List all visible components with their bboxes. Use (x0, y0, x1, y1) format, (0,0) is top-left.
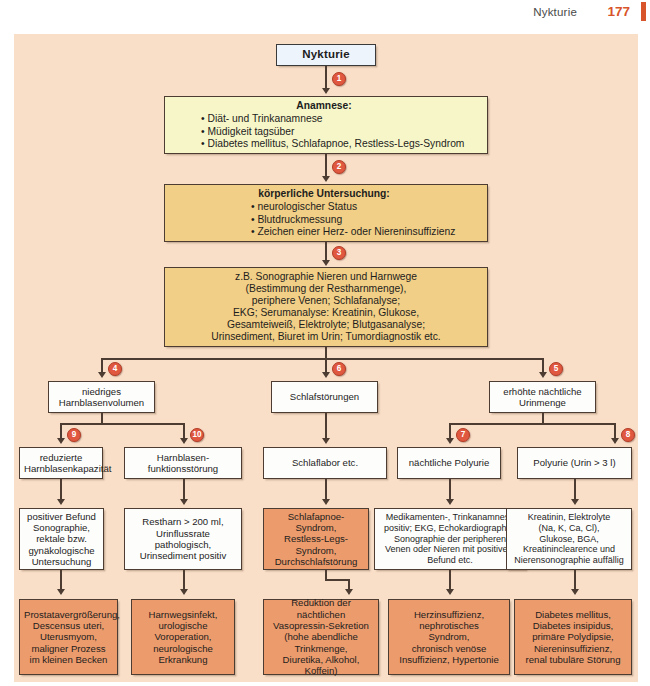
diagnosis-2-line-2: urologische (136, 620, 230, 631)
arrowhead-5 (539, 372, 547, 378)
diagnosis-2-line-1: Harnwegsinfekt, (136, 609, 230, 620)
finding-5-line-5: Nierensonographie auffällig (511, 555, 627, 566)
marker-6: 6 (332, 362, 346, 376)
branch-3-line-2: Urinmenge (494, 397, 591, 408)
marker-10: 10 (190, 428, 204, 442)
arrowhead-f3 (322, 499, 330, 505)
finding-1-line-3: rektale bzw. (24, 533, 99, 544)
finding-4-line-2: positiv; EKG, Echokardiographie, (379, 523, 521, 534)
diagnostik-line-2: (Bestimmung der Restharnmenge), (169, 283, 483, 295)
node-title-nykturie: Nykturie (276, 44, 376, 66)
marker-2: 2 (332, 160, 346, 174)
arrowhead-f4 (446, 499, 454, 505)
marker-3: 3 (332, 246, 346, 260)
sub-2-line-2: funktionsstörung (129, 463, 237, 474)
untersuchung-heading: körperliche Untersuchung: (165, 188, 483, 200)
arrowhead-7 (446, 438, 454, 444)
connector-right-horizontal (449, 423, 615, 425)
untersuchung-item-1: • neurologischer Status (165, 201, 483, 213)
marker-8: 8 (621, 428, 635, 442)
diagnosis-3-line-6: Diuretika, Alkohol, (268, 654, 374, 665)
node-sub-harnblasenfunktionsstoerung: Harnblasen- funktionsstörung (124, 447, 242, 479)
diagnosis-1-line-5: im kleinen Becken (24, 654, 113, 665)
finding-3-line-3: Restless-Legs- (268, 533, 364, 544)
finding-1-line-1: positiver Befund (24, 511, 99, 522)
branch-2-line-1: Schlafstörungen (276, 391, 373, 402)
finding-3-line-1: Schlafapnoe- (268, 511, 364, 522)
finding-1-line-4: gynäkologische (24, 545, 99, 556)
node-finding-restharn: Restharn > 200 ml, Urinflussrate patholo… (124, 508, 242, 570)
anamnese-item-1: • Diät- und Trinkanamnese (165, 113, 483, 125)
arrowhead-d1 (57, 589, 65, 595)
diagnosis-1-line-4: maligner Prozess (24, 643, 113, 654)
connector-sub1-finding1 (60, 479, 62, 501)
diagnostik-line-6: Urinsediment, Biuret im Urin; Tumordiagn… (169, 331, 483, 343)
finding-5-line-3: Glukose, BGA, (511, 534, 627, 545)
node-diagnosis-prostata: Prostatavergrößerung, Descensus uteri, U… (19, 599, 118, 675)
diagnosis-5-line-5: renal tubuläre Störung (519, 654, 627, 665)
marker-4: 4 (108, 362, 122, 376)
arrowhead-9 (57, 438, 65, 444)
node-branch-schlafstoerungen: Schlafstörungen (271, 381, 378, 413)
connector-sub4-finding4 (449, 479, 451, 501)
anamnese-item-3: • Diabetes mellitus, Schlafapnoe, Restle… (165, 138, 483, 150)
finding-5-line-4: Kreatininclearence und (511, 544, 627, 555)
diagnosis-4-line-5: Insuffizienz, Hypertonie (393, 654, 505, 665)
connector-center-down (325, 413, 327, 440)
untersuchung-item-2: • Blutdruckmessung (165, 214, 483, 226)
diagnosis-4-line-4: chronisch venöse (393, 643, 505, 654)
node-sub-naechtliche-polyurie: nächtliche Polyurie (397, 447, 501, 479)
arrowhead-3 (322, 260, 330, 266)
arrowhead-f5 (571, 499, 579, 505)
finding-1-line-2: Sonographie, (24, 522, 99, 533)
diagnosis-5-line-3: primäre Polydipsie, (519, 631, 627, 642)
node-diagnosis-diabetes: Diabetes mellitus, Diabetes insipidus, p… (514, 599, 632, 675)
finding-4-line-5: Befund etc. (379, 555, 521, 566)
arrowhead-6 (322, 372, 330, 378)
node-finding-positiver-befund: positiver Befund Sonographie, rektale bz… (19, 508, 104, 570)
arrowhead-d5 (571, 589, 579, 595)
diagnosis-5-line-1: Diabetes mellitus, (519, 609, 627, 620)
diagnostik-line-3: periphere Venen; Schlafanalyse; (169, 295, 483, 307)
diagnosis-3-line-1: Reduktion der (268, 597, 374, 608)
diagnosis-1-line-1: Prostatavergrößerung, (24, 609, 113, 620)
header-title: Nykturie (533, 6, 577, 18)
finding-2-line-4: Urinsediment positiv (129, 550, 237, 561)
sub-4-line-1: nächtliche Polyurie (402, 457, 496, 468)
diagnosis-4-line-2: nephrotisches (393, 620, 505, 631)
connector-sub5-finding5 (574, 479, 576, 501)
branch-3-line-1: erhöhte nächtliche (494, 386, 591, 397)
node-branch-niedriges-harnblasenvolumen: niedriges Harnblasenvolumen (48, 381, 155, 413)
node-sub-polyurie: Polyurie (Urin > 3 l) (517, 447, 632, 479)
finding-4-line-1: Medikamenten-, Trinkanamnese (379, 512, 521, 523)
node-sub-reduzierte-kapazitaet: reduzierte Harnblasenkapazität (19, 447, 103, 479)
finding-4-line-4: Venen oder Nieren mit positivem (379, 544, 521, 555)
connector-untersuchung-diagnostik (325, 242, 327, 262)
node-koerperliche-untersuchung: körperliche Untersuchung: • neurologisch… (164, 184, 488, 242)
page-header: Nykturie 177 (0, 0, 650, 34)
anamnese-item-2: • Müdigkeit tagsüber (165, 126, 483, 138)
header-accent-bar (641, 2, 646, 21)
finding-3-line-4: Syndrom, (268, 545, 364, 556)
arrowhead-f2 (180, 499, 188, 505)
finding-2-line-2: Urinflussrate (129, 528, 237, 539)
connector-finding3-jog (325, 579, 349, 581)
arrowhead-8 (611, 438, 619, 444)
marker-9: 9 (67, 428, 81, 442)
finding-5-line-2: (Na, K, Ca, Cl), (511, 523, 627, 534)
arrowhead-4 (98, 372, 106, 378)
node-branch-erhoehte-urinmenge: erhöhte nächtliche Urinmenge (489, 381, 596, 413)
node-diagnostik: z.B. Sonographie Nieren und Harnwege (Be… (164, 267, 488, 347)
node-sub-schlaflabor: Schlaflabor etc. (263, 447, 387, 479)
arrowhead-d2 (180, 589, 188, 595)
flowchart-canvas: Nykturie 1 Anamnese: • Diät- und Trinkan… (14, 34, 638, 682)
finding-4-line-3: Sonographie der peripheren (379, 534, 521, 545)
sub-1-line-2: Harnblasenkapazität (24, 463, 98, 474)
diagnosis-2-line-4: neurologische (136, 643, 230, 654)
arrowhead-f1 (57, 499, 65, 505)
diagnosis-5-line-4: Niereninsuffizienz, (519, 643, 627, 654)
connector-anamnese-untersuchung (325, 154, 327, 178)
connector-left-horizontal (60, 423, 184, 425)
diagnosis-3-line-5: Trinkmenge, (268, 643, 374, 654)
marker-5: 5 (549, 362, 563, 376)
